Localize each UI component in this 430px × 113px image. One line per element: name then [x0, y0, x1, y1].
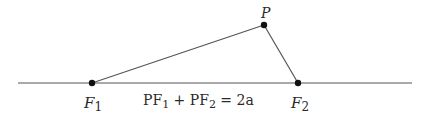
eq-rest: = 2a [216, 92, 254, 108]
ellipse-focal-diagram: P F1 F2 PF1 + PF2 = 2a [0, 0, 430, 113]
eq-plus: + PF [169, 92, 209, 108]
label-f1-letter: F [83, 94, 95, 112]
point-f2 [295, 80, 301, 86]
segment-f1-p [92, 25, 264, 83]
segment-p-f2 [264, 25, 298, 83]
equation-label: PF1 + PF2 = 2a [143, 92, 254, 111]
label-f2: F2 [290, 94, 309, 113]
point-f1 [89, 80, 95, 86]
point-p [261, 22, 267, 28]
label-f2-letter: F [290, 94, 302, 112]
label-p: P [260, 5, 271, 21]
label-f1: F1 [83, 94, 102, 113]
eq-part1: PF [143, 92, 162, 108]
eq-sub1: 1 [162, 98, 169, 111]
eq-sub2: 2 [209, 98, 216, 111]
label-f1-sub: 1 [94, 100, 102, 113]
label-f2-sub: 2 [301, 100, 309, 113]
